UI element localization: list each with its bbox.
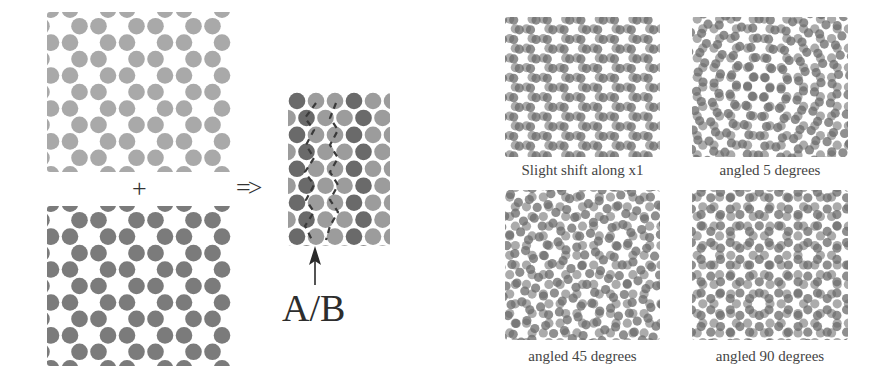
- lattice-b-panel: [33, 195, 230, 376]
- interface-label: A/B: [282, 286, 345, 330]
- caption-45deg: angled 45 degrees: [505, 348, 660, 365]
- moire-panel-5deg: [684, 8, 856, 165]
- moire-panel-90deg: [687, 183, 853, 348]
- moire-panel-shift: [498, 15, 666, 161]
- combined-interface-panel: [241, 93, 476, 262]
- lattice-a-panel: [33, 1, 230, 182]
- up-arrow-icon: [309, 246, 321, 285]
- plus-operator: +: [132, 174, 147, 204]
- caption-5deg: angled 5 degrees: [692, 162, 848, 179]
- moire-panel-45deg: [496, 181, 668, 349]
- caption-shift: Slight shift along x1: [505, 162, 660, 179]
- arrow-operator: =>: [236, 173, 259, 203]
- caption-90deg: angled 90 degrees: [692, 348, 848, 365]
